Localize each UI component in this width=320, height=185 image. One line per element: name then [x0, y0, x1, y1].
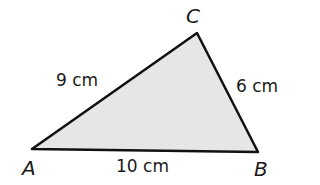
side-label-ac: 9 cm: [56, 70, 98, 90]
vertex-label-a: A: [22, 156, 36, 180]
side-label-ab: 10 cm: [116, 156, 169, 176]
vertex-label-b: B: [254, 157, 268, 181]
side-label-cb: 6 cm: [236, 76, 278, 96]
triangle-abc: [32, 33, 258, 152]
vertex-label-c: C: [186, 4, 200, 28]
